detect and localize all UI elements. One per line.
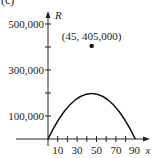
x-tick-label: 70 <box>110 144 122 156</box>
x-axis: 10 30 50 70 90 x <box>16 136 151 156</box>
y-tick-label: 100,000 <box>8 110 44 122</box>
x-tick-label: 10 <box>52 144 64 156</box>
y-axis-arrow-icon <box>46 11 51 18</box>
revenue-parabola-chart: (c) 10 30 50 70 90 x 100 <box>0 0 155 158</box>
y-axis-label: R <box>54 9 62 21</box>
revenue-curve <box>48 93 135 139</box>
panel-label: (c) <box>1 0 14 7</box>
x-tick-label: 30 <box>72 144 84 156</box>
vertex-annotation: (45, 405,000) <box>62 30 122 43</box>
y-tick-label: 500,000 <box>8 18 44 30</box>
vertex-point <box>89 44 93 48</box>
x-tick-label: 90 <box>129 144 141 156</box>
x-tick-label: 50 <box>91 144 103 156</box>
y-tick-label: 300,000 <box>8 64 44 76</box>
x-axis-label: x <box>145 144 151 156</box>
x-axis-arrow-icon <box>143 137 150 142</box>
y-axis: 100,000 300,000 500,000 R <box>8 9 62 146</box>
